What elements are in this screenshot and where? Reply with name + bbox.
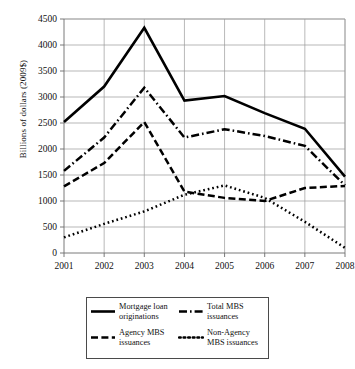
x-tick-label: 2005 bbox=[215, 261, 234, 271]
legend-label: Non-Agency MBS issuances bbox=[207, 328, 258, 348]
y-tick-label: 1500 bbox=[38, 170, 57, 180]
y-tick-label: 2500 bbox=[38, 118, 57, 128]
legend-line-swatch bbox=[178, 303, 204, 314]
legend-line-swatch bbox=[178, 329, 204, 340]
x-tick-label: 2006 bbox=[255, 261, 274, 271]
series-line-1 bbox=[64, 28, 345, 177]
y-tick-label: 3500 bbox=[38, 66, 57, 76]
data-series bbox=[64, 28, 345, 248]
chart-legend: Mortgage loan originationsTotal MBS issu… bbox=[86, 297, 269, 359]
series-line-2 bbox=[64, 88, 345, 186]
y-axis-ticks: 050010001500200025003000350040004500 bbox=[38, 14, 57, 258]
x-axis-ticks: 20012002200320042005200620072008 bbox=[55, 261, 355, 271]
chart-plot-region: Billions of dollars (2009$) 050010001500… bbox=[0, 0, 355, 285]
legend-label: Total MBS issuances bbox=[207, 302, 244, 322]
y-tick-label: 2000 bbox=[38, 144, 57, 154]
x-tick-label: 2004 bbox=[175, 261, 194, 271]
x-tick-label: 2002 bbox=[95, 261, 114, 271]
y-tick-label: 3000 bbox=[38, 92, 57, 102]
y-tick-label: 500 bbox=[43, 222, 58, 232]
chart-canvas: 050010001500200025003000350040004500 200… bbox=[0, 0, 355, 285]
legend-grid: Mortgage loan originationsTotal MBS issu… bbox=[87, 298, 268, 358]
y-tick-label: 4500 bbox=[38, 14, 57, 24]
legend-item[interactable]: Total MBS issuances bbox=[178, 302, 266, 328]
x-tick-label: 2001 bbox=[55, 261, 74, 271]
x-tick-label: 2007 bbox=[295, 261, 314, 271]
legend-item[interactable]: Non-Agency MBS issuances bbox=[178, 328, 266, 354]
series-line-4 bbox=[64, 185, 345, 247]
legend-line-swatch bbox=[90, 329, 116, 340]
legend-line-swatch bbox=[90, 303, 116, 314]
legend-item[interactable]: Agency MBS issuances bbox=[90, 328, 178, 354]
legend-label: Agency MBS issuances bbox=[119, 328, 164, 348]
x-tick-label: 2003 bbox=[135, 261, 154, 271]
y-tick-label: 4000 bbox=[38, 40, 57, 50]
legend-label: Mortgage loan originations bbox=[119, 302, 168, 322]
chart-figure: Billions of dollars (2009$) 050010001500… bbox=[0, 0, 355, 369]
legend-item[interactable]: Mortgage loan originations bbox=[90, 302, 178, 328]
y-tick-label: 1000 bbox=[38, 196, 57, 206]
y-tick-label: 0 bbox=[52, 248, 57, 258]
x-tick-label: 2008 bbox=[336, 261, 355, 271]
